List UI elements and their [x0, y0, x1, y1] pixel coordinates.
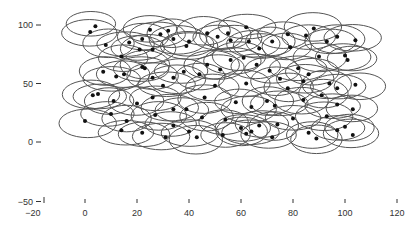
data-point: [268, 69, 272, 73]
data-point: [114, 74, 118, 78]
x-tick-label: 40: [184, 208, 194, 218]
y-tick-label: 0: [28, 137, 33, 147]
data-point: [353, 83, 357, 87]
data-point: [275, 122, 279, 126]
data-point: [346, 58, 350, 62]
data-point: [353, 38, 357, 42]
data-point: [307, 131, 311, 135]
data-point: [135, 101, 139, 105]
data-point: [351, 107, 355, 111]
data-point: [286, 32, 290, 36]
data-point: [291, 117, 295, 121]
data-point: [255, 63, 259, 67]
x-tick-label: 100: [337, 208, 352, 218]
data-point: [161, 84, 165, 88]
data-point: [325, 39, 329, 43]
data-point: [229, 38, 233, 42]
data-point: [184, 44, 188, 48]
data-point: [101, 70, 105, 74]
data-point: [96, 92, 100, 96]
ellipse-marker: [73, 84, 126, 109]
data-point: [335, 35, 339, 39]
data-point: [265, 99, 269, 103]
y-tick-label: −50: [18, 197, 33, 207]
data-point: [127, 41, 131, 45]
data-point: [122, 72, 126, 76]
data-point: [151, 96, 155, 100]
data-point: [205, 63, 209, 67]
y-tick-label: 50: [23, 79, 33, 89]
data-point: [301, 79, 305, 83]
data-point: [320, 93, 324, 97]
ellipse-layer: [59, 11, 386, 154]
data-point: [216, 35, 220, 39]
data-point: [125, 119, 129, 123]
ellipse-marker: [84, 88, 133, 115]
data-point: [83, 119, 87, 123]
scatter-chart: −20020406080100120 −50050100: [0, 0, 407, 231]
data-point: [296, 66, 300, 70]
ellipse-marker: [176, 63, 225, 90]
data-point: [343, 125, 347, 129]
data-point: [138, 48, 142, 52]
data-point: [242, 56, 246, 60]
data-point: [351, 133, 355, 137]
ellipse-marker: [241, 122, 296, 149]
x-tick-label: −20: [25, 208, 40, 218]
data-point: [109, 112, 113, 116]
x-tick-label: 120: [389, 208, 404, 218]
data-point: [213, 84, 217, 88]
data-point: [226, 31, 230, 35]
data-point: [187, 39, 191, 43]
y-tick-label: 100: [18, 20, 33, 30]
data-point: [229, 58, 233, 62]
data-point: [270, 135, 274, 139]
data-point: [314, 136, 318, 140]
data-point: [343, 53, 347, 57]
data-point: [257, 124, 261, 128]
data-point: [151, 76, 155, 80]
data-point: [223, 118, 227, 122]
data-point: [148, 28, 152, 32]
data-point: [171, 76, 175, 80]
data-point: [270, 39, 274, 43]
y-axis: −50050100: [18, 20, 41, 207]
data-point: [153, 113, 157, 117]
data-point: [273, 104, 277, 108]
data-point: [301, 98, 305, 102]
data-point: [335, 128, 339, 132]
data-point: [335, 103, 339, 107]
data-point: [104, 43, 108, 47]
data-point: [171, 37, 175, 41]
data-point: [278, 77, 282, 81]
data-point: [205, 31, 209, 35]
ellipse-marker: [98, 120, 153, 145]
data-point: [249, 129, 253, 133]
data-point: [93, 24, 97, 28]
x-tick-label: 0: [82, 208, 87, 218]
ellipse-marker: [323, 119, 378, 148]
data-point: [88, 30, 92, 34]
x-tick-label: 80: [288, 208, 298, 218]
data-point: [249, 105, 253, 109]
data-point: [317, 55, 321, 59]
ellipse-marker: [327, 46, 376, 71]
data-point: [203, 96, 207, 100]
ellipse-marker: [316, 44, 371, 71]
data-point: [288, 45, 292, 49]
data-point: [327, 82, 331, 86]
data-point: [257, 46, 261, 50]
data-point: [244, 25, 248, 29]
data-point: [119, 55, 123, 59]
data-point: [218, 67, 222, 71]
data-point: [91, 93, 95, 97]
data-point: [187, 129, 191, 133]
data-point: [247, 39, 251, 43]
data-point: [325, 114, 329, 118]
data-point: [200, 115, 204, 119]
data-point: [119, 128, 123, 132]
data-point: [184, 107, 188, 111]
data-point: [197, 72, 201, 76]
data-point: [307, 72, 311, 76]
x-tick-label: 20: [132, 208, 142, 218]
